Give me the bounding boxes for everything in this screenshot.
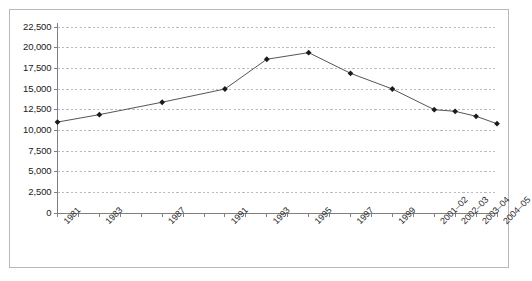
data-point-marker — [452, 108, 458, 114]
y-axis-tick-label: 17,500 — [23, 62, 51, 73]
data-series-line — [58, 53, 498, 124]
y-axis-tick-label: 15,000 — [23, 83, 51, 94]
data-point-marker — [389, 86, 395, 92]
y-axis-tick-label: 7,500 — [28, 145, 51, 156]
data-point-marker — [96, 112, 102, 118]
data-point-marker — [159, 99, 165, 105]
data-point-marker — [494, 121, 500, 127]
y-axis-tick-label: 10,000 — [23, 124, 51, 135]
y-axis-tick-label: 5,000 — [28, 165, 51, 176]
data-point-marker — [473, 113, 479, 119]
y-axis-tick-label: 22,500 — [23, 21, 51, 32]
y-axis-tick-label: 0 — [46, 207, 51, 218]
data-point-marker — [55, 119, 61, 125]
data-point-marker — [431, 107, 437, 113]
y-axis-tick-label: 20,000 — [23, 41, 51, 52]
data-point-marker — [306, 50, 312, 56]
data-point-marker — [348, 70, 354, 76]
y-axis-tick-label: 2,500 — [28, 186, 51, 197]
y-axis-tick-label: 12,500 — [23, 103, 51, 114]
